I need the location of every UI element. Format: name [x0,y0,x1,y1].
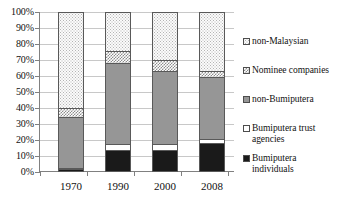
legend-swatch-dots-icon [243,38,250,45]
segment-non-malaysian [153,13,177,60]
legend-swatch-black-icon [243,155,250,162]
legend-item-non-malaysian[interactable]: non-Malaysian [243,36,353,47]
legend-item-non-bumiputera[interactable]: non-Bumiputera [243,94,353,105]
y-tick-mark [35,92,39,93]
legend-label: non-Malaysian [252,36,308,47]
x-tick-label-2008: 2008 [182,180,242,192]
segment-non-bumiputera [153,71,177,144]
segment-non-bumiputera [106,63,130,144]
legend-item-bumiputera-trust-agencies[interactable]: Bumiputera trust agencies [243,123,353,144]
y-tick-mark [35,108,39,109]
segment-nominee-companies [59,108,83,117]
legend-label: Nominee companies [252,65,329,76]
legend-label: Bumiputera individuals [252,153,296,174]
plot-area [40,12,234,172]
segment-bumiputera-individuals [59,169,83,171]
legend-label: Bumiputera trust agencies [252,123,315,144]
legend-swatch-checker-icon [243,67,250,74]
y-tick-mark [35,156,39,157]
segment-non-bumiputera [59,117,83,168]
y-tick-mark [35,28,39,29]
y-tick-label: 50% [16,87,34,97]
y-tick-label: 10% [16,151,34,161]
segment-bumiputera-individuals [153,150,177,171]
y-tick-label: 70% [16,55,34,65]
y-tick-label: 60% [16,71,34,81]
x-tick-mark [228,172,229,176]
y-tick-mark [35,76,39,77]
x-tick-mark [87,172,88,176]
bar-1990[interactable] [105,12,131,172]
segment-bumiputera-individuals [106,150,130,171]
y-tick-label: 0% [21,167,34,177]
x-tick-mark [181,172,182,176]
y-tick-mark [35,60,39,61]
bar-2008[interactable] [199,12,225,172]
bar-1970[interactable] [58,12,84,172]
segment-bumiputera-individuals [200,143,224,171]
segment-nominee-companies [106,51,130,63]
segment-non-malaysian [200,13,224,71]
y-tick-mark [35,172,39,173]
segment-nominee-companies [153,60,177,72]
y-tick-mark [35,12,39,13]
bar-2000[interactable] [152,12,178,172]
y-tick-label: 40% [16,103,34,113]
segment-non-bumiputera [200,77,224,139]
x-tick-mark [134,172,135,176]
y-tick-mark [35,44,39,45]
legend-swatch-white-icon [243,125,250,132]
y-tick-label: 20% [16,135,34,145]
legend-label: non-Bumiputera [252,94,314,105]
y-tick-label: 80% [16,39,34,49]
y-tick-mark [35,140,39,141]
x-tick-mark [40,172,41,176]
stacked-bar-chart: 100% 90% 80% 70% 60% 50% 40% 30% 20% 10%… [0,0,353,203]
y-tick-label: 90% [16,23,34,33]
y-tick-label: 100% [11,7,34,17]
y-tick-label: 30% [16,119,34,129]
legend-item-bumiputera-individuals[interactable]: Bumiputera individuals [243,153,353,174]
legend-item-nominee-companies[interactable]: Nominee companies [243,65,353,76]
segment-non-malaysian [59,13,83,108]
segment-non-malaysian [106,13,130,51]
y-tick-mark [35,124,39,125]
y-axis: 100% 90% 80% 70% 60% 50% 40% 30% 20% 10%… [0,12,36,172]
legend-swatch-gray-icon [243,96,250,103]
